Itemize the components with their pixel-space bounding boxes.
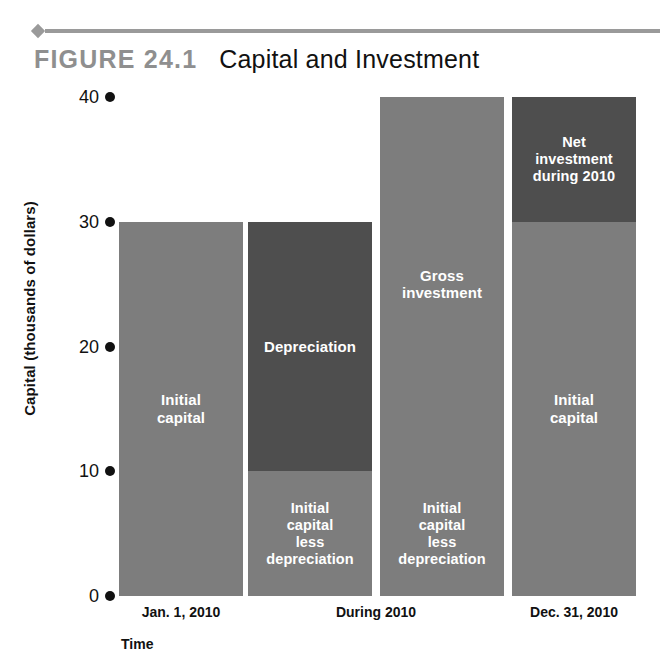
bar-segment-label: Grossinvestment <box>400 267 484 302</box>
y-tick-10: 10 <box>55 462 117 480</box>
bar-segment: Initialcapital <box>119 222 243 596</box>
chart-plot-area: Capital (thousands of dollars) 010203040… <box>0 0 667 670</box>
x-axis-title: Time <box>121 636 153 652</box>
y-tick-0: 0 <box>55 587 117 605</box>
bar-segment: Initialcapital <box>512 222 636 596</box>
y-tick-label: 20 <box>79 338 99 356</box>
bar-segment-label: Initialcapital <box>155 391 207 426</box>
bar-jan-1-2010: Initialcapital <box>119 222 243 596</box>
bar-during-2010-depreciation: InitialcapitallessdepreciationDepreciati… <box>248 222 372 596</box>
bar-during-2010-gross-investment: InitialcapitallessdepreciationGrossinves… <box>380 97 504 596</box>
y-tick-label: 0 <box>89 587 99 605</box>
bar-segment-label: Initialcapitallessdepreciation <box>264 500 355 568</box>
x-axis-label-2: During 2010 <box>286 604 466 620</box>
x-axis-label-3: Dec. 31, 2010 <box>484 604 664 620</box>
bar-segment: Initialcapitallessdepreciation <box>380 471 504 596</box>
y-tick-20: 20 <box>55 338 117 356</box>
y-axis-title: Capital (thousands of dollars) <box>21 184 38 434</box>
bar-segment: Grossinvestment <box>380 97 504 471</box>
bar-segment-label: Depreciation <box>262 338 358 356</box>
y-tick-dot-icon <box>105 217 115 227</box>
bar-dec-31-2010: InitialcapitalNetinvestmentduring 2010 <box>512 97 636 596</box>
y-tick-label: 40 <box>79 88 99 106</box>
y-tick-label: 30 <box>79 213 99 231</box>
x-axis-label-1: Jan. 1, 2010 <box>91 604 271 620</box>
bar-segment-label: Initialcapital <box>548 391 600 426</box>
bar-segment-label: Netinvestmentduring 2010 <box>531 134 618 185</box>
bar-segment: Depreciation <box>248 222 372 472</box>
y-tick-dot-icon <box>105 466 115 476</box>
bar-segment: Netinvestmentduring 2010 <box>512 97 636 222</box>
bar-segment-label: Initialcapitallessdepreciation <box>396 500 487 568</box>
y-tick-dot-icon <box>105 92 115 102</box>
y-tick-dot-icon <box>105 591 115 601</box>
y-tick-30: 30 <box>55 213 117 231</box>
y-tick-dot-icon <box>105 342 115 352</box>
y-tick-40: 40 <box>55 88 117 106</box>
y-tick-label: 10 <box>79 462 99 480</box>
bar-segment: Initialcapitallessdepreciation <box>248 471 372 596</box>
